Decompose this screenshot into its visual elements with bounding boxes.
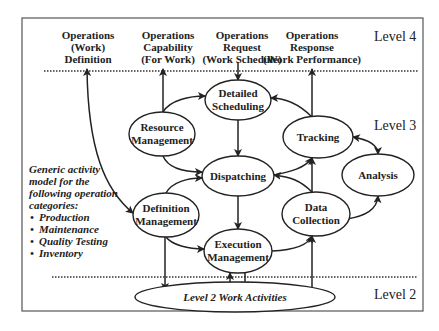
level4-output-capability: Operations Capability (For Work) xyxy=(141,29,195,66)
activity-model-diagram: Level 4 Level 3 Level 2 Operations (Work… xyxy=(0,0,439,331)
node-execution-management[interactable]: Execution Management xyxy=(204,229,272,273)
svg-text:Tracking: Tracking xyxy=(297,131,340,143)
bullet-maintenance: Maintenance xyxy=(38,223,99,235)
svg-text:Scheduling: Scheduling xyxy=(212,100,264,112)
bullet-production: Production xyxy=(39,211,90,223)
svg-text:(Work Performance): (Work Performance) xyxy=(263,53,361,66)
svg-text:model for the: model for the xyxy=(29,175,90,187)
level3-label: Level 3 xyxy=(374,118,416,133)
svg-text:Definition: Definition xyxy=(64,53,111,65)
svg-text:Resource: Resource xyxy=(140,121,183,133)
svg-text:Response: Response xyxy=(290,41,334,53)
svg-text:Detailed: Detailed xyxy=(218,87,257,99)
node-resource-management[interactable]: Resource Management xyxy=(129,112,195,156)
svg-text:(For Work): (For Work) xyxy=(141,53,195,66)
svg-text:following operation: following operation xyxy=(29,187,118,199)
node-level2-work-activities[interactable]: Level 2 Work Activities xyxy=(135,282,335,312)
svg-text:Data: Data xyxy=(305,201,328,213)
svg-text:Operations: Operations xyxy=(142,29,195,41)
node-detailed-scheduling[interactable]: Detailed Scheduling xyxy=(205,80,271,120)
bullet-quality-testing: Quality Testing xyxy=(39,235,108,247)
svg-text:Generic activity: Generic activity xyxy=(29,163,100,175)
svg-text:•: • xyxy=(30,223,34,235)
svg-text:Collection: Collection xyxy=(292,214,340,226)
node-definition-management[interactable]: Definition Management xyxy=(133,193,199,237)
node-tracking[interactable]: Tracking xyxy=(283,116,353,158)
svg-text:•: • xyxy=(30,235,34,247)
svg-text:Request: Request xyxy=(223,41,261,53)
svg-text:•: • xyxy=(30,247,34,259)
node-data-collection[interactable]: Data Collection xyxy=(282,192,350,236)
svg-text:Dispatching: Dispatching xyxy=(210,170,267,182)
svg-text:•: • xyxy=(30,211,34,223)
node-dispatching[interactable]: Dispatching xyxy=(202,156,274,196)
svg-text:Management: Management xyxy=(207,251,269,263)
svg-text:Operations: Operations xyxy=(286,29,339,41)
bullet-inventory: Inventory xyxy=(38,247,83,259)
svg-text:Level 2 Work Activities: Level 2 Work Activities xyxy=(182,291,286,303)
svg-text:Operations: Operations xyxy=(62,29,115,41)
svg-text:Execution: Execution xyxy=(214,238,261,250)
level2-label: Level 2 xyxy=(374,287,416,302)
svg-text:Analysis: Analysis xyxy=(358,169,398,181)
node-analysis[interactable]: Analysis xyxy=(342,154,414,196)
svg-text:Operations: Operations xyxy=(216,29,269,41)
svg-text:categories:: categories: xyxy=(29,199,78,211)
svg-text:Capability: Capability xyxy=(143,41,193,53)
svg-text:Management: Management xyxy=(131,134,193,146)
svg-text:Definition: Definition xyxy=(142,202,189,214)
level4-label: Level 4 xyxy=(374,29,416,44)
svg-text:Management: Management xyxy=(135,215,197,227)
